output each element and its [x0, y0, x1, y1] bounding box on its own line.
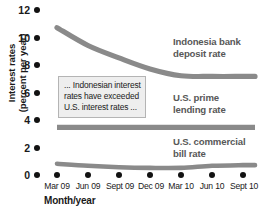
- series-label-prime-line-2: lending rate: [173, 104, 226, 116]
- series-label-bill-line-1: U.S. commercial: [173, 136, 245, 148]
- y-tick-dot-8: [34, 62, 40, 68]
- x-tick-label-mar-09: Mar 09: [44, 181, 70, 191]
- callout-line-3: U.S. interest rates ...: [64, 102, 141, 113]
- y-tick-label-10: 10: [18, 32, 30, 44]
- x-tick-label-jun-10: Jun 10: [200, 181, 225, 191]
- x-axis-title: Month/year: [44, 195, 95, 206]
- x-tick-dot-jun-09: [85, 172, 91, 178]
- y-tick-dot-12: [34, 7, 40, 13]
- y-tick-label-6: 6: [24, 87, 30, 99]
- series-label-us-commercial-bill-rate: U.S. commercial bill rate: [173, 136, 245, 159]
- y-tick-dot-6: [34, 90, 40, 96]
- y-tick-dot-10: [34, 35, 40, 41]
- callout-line-1: ... Indonesian interest: [64, 80, 141, 91]
- y-tick-dot-4: [34, 117, 40, 123]
- x-tick-dot-sept-10: [240, 172, 246, 178]
- series-label-indonesia-bank-deposit-rate: Indonesia bank deposit rate: [173, 36, 241, 59]
- series-label-indonesia-line-1: Indonesia bank: [173, 36, 241, 48]
- y-tick-label-0: 0: [24, 169, 30, 181]
- y-tick-label-12: 12: [18, 4, 30, 16]
- x-tick-label-sept-10: Sept 10: [230, 181, 258, 191]
- y-tick-label-8: 8: [24, 59, 30, 71]
- x-tick-label-sept-09: Sept 09: [106, 181, 134, 191]
- y-axis-title-line-1: Interest rates: [6, 12, 17, 134]
- x-tick-dot-mar-10: [178, 172, 184, 178]
- x-tick-dot-sept-09: [116, 172, 122, 178]
- x-tick-label-dec-09: Dec 09: [138, 181, 164, 191]
- series-label-us-prime-lending-rate: U.S. prime lending rate: [173, 92, 226, 115]
- x-tick-dot-dec-09: [147, 172, 153, 178]
- series-label-indonesia-line-2: deposit rate: [173, 48, 241, 60]
- callout-line-2: rates have exceeded: [64, 91, 141, 102]
- y-tick-dot-0: [34, 172, 40, 178]
- line-us-commercial-bill-rate: [57, 164, 255, 168]
- x-tick-label-mar-10: Mar 10: [168, 181, 194, 191]
- y-tick-label-2: 2: [24, 142, 30, 154]
- series-label-bill-line-2: bill rate: [173, 148, 245, 160]
- series-label-prime-line-1: U.S. prime: [173, 92, 226, 104]
- callout-annotation: ... Indonesian interest rates have excee…: [58, 76, 146, 118]
- y-tick-dot-2: [34, 145, 40, 151]
- x-tick-label-jun-09: Jun 09: [76, 181, 101, 191]
- x-tick-dot-mar-09: [54, 172, 60, 178]
- x-tick-dot-jun-10: [209, 172, 215, 178]
- interest-rates-line-chart: Interest rates (percent per year) 0 2 4 …: [0, 0, 271, 207]
- y-tick-label-4: 4: [24, 114, 30, 126]
